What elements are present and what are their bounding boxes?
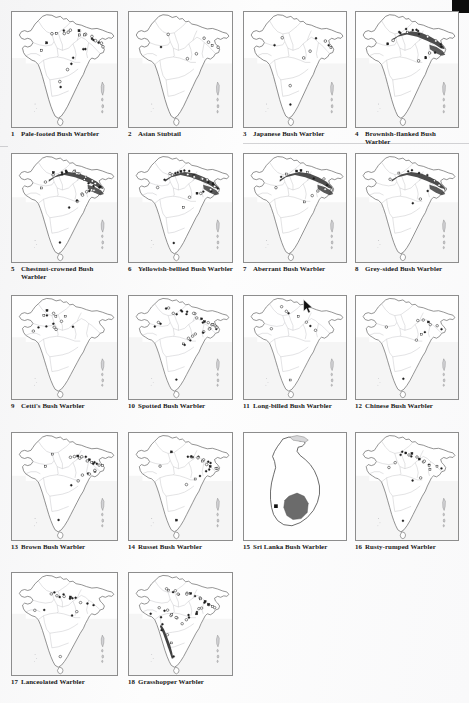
map-svg-18 xyxy=(129,573,232,675)
map-number: 7 xyxy=(243,265,250,273)
map-svg-10 xyxy=(129,296,232,399)
map-cell-3[interactable]: 3Japanese Bush Warbler xyxy=(243,11,347,138)
map-cell-5[interactable]: 5Chestnut-crowned Bush Warbler xyxy=(11,153,118,282)
distribution-map-2[interactable] xyxy=(128,11,233,128)
map-species-name: Chestnut-crowned Bush Warbler xyxy=(21,265,118,282)
map-number: 12 xyxy=(355,402,362,410)
map-svg-3 xyxy=(244,12,346,127)
distribution-map-1[interactable] xyxy=(11,11,118,128)
map-species-name: Sri Lanka Bush Warbler xyxy=(253,543,347,551)
map-svg-7 xyxy=(244,154,346,262)
map-species-name: Rusty-rumped Warbler xyxy=(365,543,459,551)
distribution-map-10[interactable] xyxy=(128,295,233,400)
distribution-map-15[interactable] xyxy=(243,432,347,541)
map-number: 9 xyxy=(11,402,18,410)
map-caption-17: 17Lanceolated Warbler xyxy=(11,678,118,686)
map-svg-8 xyxy=(356,154,458,262)
map-svg-4 xyxy=(356,12,458,127)
map-caption-11: 11Long-billed Bush Warbler xyxy=(243,402,347,410)
map-caption-15: 15Sri Lanka Bush Warbler xyxy=(243,543,347,551)
map-svg-1 xyxy=(12,12,117,127)
map-cell-12[interactable]: 12Chinese Bush Warbler xyxy=(355,295,459,410)
map-caption-14: 14Russet Bush Warbler xyxy=(128,543,233,551)
map-cell-14[interactable]: 14Russet Bush Warbler xyxy=(128,432,233,551)
map-number: 1 xyxy=(11,130,18,138)
map-cell-10[interactable]: 10Spotted Bush Warbler xyxy=(128,295,233,410)
map-caption-2: 2Asian Stubtail xyxy=(128,130,233,138)
map-caption-5: 5Chestnut-crowned Bush Warbler xyxy=(11,265,118,282)
map-cell-6[interactable]: 6Yellowish-bellied Bush Warbler xyxy=(128,153,233,273)
map-species-name: Chinese Bush Warbler xyxy=(365,402,459,410)
map-number: 5 xyxy=(11,265,18,273)
map-cell-13[interactable]: 13Brown Bush Warbler xyxy=(11,432,118,551)
map-number: 3 xyxy=(243,130,250,138)
distribution-map-8[interactable] xyxy=(355,153,459,263)
map-cell-9[interactable]: 9Cetti's Bush Warbler xyxy=(11,295,118,410)
distribution-map-11[interactable] xyxy=(243,295,347,400)
map-svg-6 xyxy=(129,154,232,262)
distribution-map-18[interactable] xyxy=(128,572,233,676)
map-svg-14 xyxy=(129,433,232,540)
map-species-name: Spotted Bush Warbler xyxy=(138,402,233,410)
map-caption-16: 16Rusty-rumped Warbler xyxy=(355,543,459,551)
map-caption-4: 4Brownish-flanked Bush Warbler xyxy=(355,130,459,147)
map-caption-13: 13Brown Bush Warbler xyxy=(11,543,118,551)
distribution-map-7[interactable] xyxy=(243,153,347,263)
map-grid: 1Pale-footed Bush Warbler2Asian Stubtail… xyxy=(0,0,469,703)
map-caption-6: 6Yellowish-bellied Bush Warbler xyxy=(128,265,233,273)
map-number: 10 xyxy=(128,402,135,410)
map-svg-15 xyxy=(244,433,346,540)
distribution-map-3[interactable] xyxy=(243,11,347,128)
map-cell-2[interactable]: 2Asian Stubtail xyxy=(128,11,233,138)
map-number: 4 xyxy=(355,130,362,138)
map-cell-4[interactable]: 4Brownish-flanked Bush Warbler xyxy=(355,11,459,147)
map-cell-8[interactable]: 8Grey-sided Bush Warbler xyxy=(355,153,459,273)
map-cell-18[interactable]: 18Grasshopper Warbler xyxy=(128,572,233,686)
map-number: 2 xyxy=(128,130,135,138)
map-number: 18 xyxy=(128,678,135,686)
map-number: 13 xyxy=(11,543,18,551)
map-species-name: Asian Stubtail xyxy=(138,130,233,138)
map-number: 17 xyxy=(11,678,18,686)
distribution-map-14[interactable] xyxy=(128,432,233,541)
distribution-map-13[interactable] xyxy=(11,432,118,541)
map-species-name: Grasshopper Warbler xyxy=(138,678,233,686)
map-svg-12 xyxy=(356,296,458,399)
map-svg-16 xyxy=(356,433,458,540)
map-species-name: Brownish-flanked Bush Warbler xyxy=(365,130,459,147)
map-cell-15[interactable]: 15Sri Lanka Bush Warbler xyxy=(243,432,347,551)
map-cell-17[interactable]: 17Lanceolated Warbler xyxy=(11,572,118,686)
distribution-map-9[interactable] xyxy=(11,295,118,400)
map-species-name: Long-billed Bush Warbler xyxy=(253,402,347,410)
map-svg-5 xyxy=(12,154,117,262)
map-species-name: Japanese Bush Warbler xyxy=(253,130,347,138)
map-caption-12: 12Chinese Bush Warbler xyxy=(355,402,459,410)
map-number: 6 xyxy=(128,265,135,273)
map-species-name: Russet Bush Warbler xyxy=(138,543,233,551)
map-number: 16 xyxy=(355,543,362,551)
distribution-map-6[interactable] xyxy=(128,153,233,263)
map-species-name: Aberrant Bush Warbler xyxy=(253,265,347,273)
distribution-map-17[interactable] xyxy=(11,572,118,676)
map-species-name: Grey-sided Bush Warbler xyxy=(365,265,459,273)
map-cell-16[interactable]: 16Rusty-rumped Warbler xyxy=(355,432,459,551)
map-number: 15 xyxy=(243,543,250,551)
map-caption-8: 8Grey-sided Bush Warbler xyxy=(355,265,459,273)
map-svg-9 xyxy=(12,296,117,399)
map-species-name: Pale-footed Bush Warbler xyxy=(21,130,118,138)
map-svg-17 xyxy=(12,573,117,675)
map-cell-11[interactable]: 11Long-billed Bush Warbler xyxy=(243,295,347,410)
map-cell-1[interactable]: 1Pale-footed Bush Warbler xyxy=(11,11,118,138)
map-species-name: Brown Bush Warbler xyxy=(21,543,118,551)
distribution-map-5[interactable] xyxy=(11,153,118,263)
map-caption-1: 1Pale-footed Bush Warbler xyxy=(11,130,118,138)
map-svg-11 xyxy=(244,296,346,399)
map-species-name: Cetti's Bush Warbler xyxy=(21,402,118,410)
map-number: 11 xyxy=(243,402,250,410)
distribution-map-12[interactable] xyxy=(355,295,459,400)
map-caption-7: 7Aberrant Bush Warbler xyxy=(243,265,347,273)
map-svg-13 xyxy=(12,433,117,540)
distribution-map-16[interactable] xyxy=(355,432,459,541)
map-cell-7[interactable]: 7Aberrant Bush Warbler xyxy=(243,153,347,273)
distribution-map-4[interactable] xyxy=(355,11,459,128)
